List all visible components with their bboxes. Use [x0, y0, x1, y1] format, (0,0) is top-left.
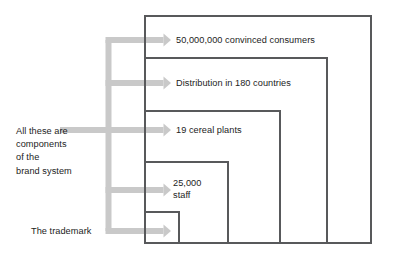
arrow-stem-staff [106, 187, 164, 193]
brand-system-note-line-4: brand system [16, 165, 72, 178]
layer-label-staff-line-1: 25,000 [173, 177, 201, 190]
arrow-head-distribution [164, 77, 172, 90]
arrow-bus-trunk [106, 40, 112, 231]
diagram-canvas: 50,000,000 convinced consumers Distribut… [0, 0, 395, 259]
layer-label-distribution: Distribution in 180 countries [176, 77, 291, 90]
layer-label-consumers: 50,000,000 convinced consumers [176, 34, 315, 47]
arrow-stem-trademark [106, 228, 164, 234]
brand-system-note-line-2: components [16, 138, 72, 151]
arrow-head-consumers [164, 34, 172, 47]
arrow-head-plants [164, 124, 172, 137]
layer-label-staff: 25,000 staff [173, 177, 201, 202]
arrow-stem-consumers [106, 37, 164, 43]
brand-system-note-label: All these are components of the brand sy… [16, 125, 72, 178]
layer-label-staff-line-2: staff [173, 189, 201, 202]
arrow-head-staff [164, 184, 172, 197]
brand-system-note-line-1: All these are [16, 125, 72, 138]
arrow-head-trademark [164, 225, 172, 238]
arrow-stem-plants [60, 127, 164, 133]
arrow-stem-distribution [106, 80, 164, 86]
trademark-callout-label: The trademark [31, 225, 91, 238]
box-trademark [145, 212, 179, 243]
layer-label-plants: 19 cereal plants [176, 124, 242, 137]
arrow-bus-group [60, 34, 171, 238]
brand-system-note-line-3: of the [16, 151, 72, 164]
